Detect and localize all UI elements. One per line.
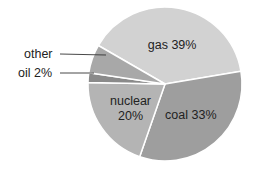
label-coal: coal 33% <box>165 108 216 122</box>
pie-chart: gas 39% coal 33% nuclear 20% other oil 2… <box>0 0 254 178</box>
label-other: other <box>24 47 53 61</box>
label-oil: oil 2% <box>18 66 52 80</box>
label-nuclear-value: 20% <box>118 109 143 123</box>
label-nuclear-name: nuclear <box>110 94 151 108</box>
label-gas: gas 39% <box>148 38 197 52</box>
pie-slices <box>88 7 242 161</box>
